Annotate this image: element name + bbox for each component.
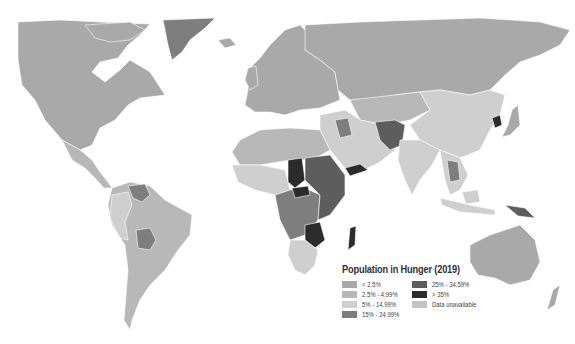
legend-item: Data unavailable bbox=[412, 299, 502, 309]
legend-item: 15% - 24.99% bbox=[342, 309, 410, 319]
region-uk bbox=[245, 66, 258, 90]
legend-item: < 2.5% bbox=[342, 279, 410, 289]
legend-items: < 2.5% 2.5% - 4.99% 5% - 14.99% 15% - 24… bbox=[342, 279, 512, 319]
legend-label: 5% - 14.99% bbox=[362, 301, 396, 308]
legend-title: Population in Hunger (2019) bbox=[342, 263, 492, 275]
legend-swatch bbox=[412, 301, 427, 308]
legend-item: 5% - 14.99% bbox=[342, 299, 410, 309]
region-madagascar bbox=[348, 226, 356, 250]
legend-swatch bbox=[342, 311, 357, 318]
legend-item: 25% - 34.59% bbox=[412, 279, 502, 289]
legend-label: 15% - 24.99% bbox=[362, 311, 399, 318]
region-chad bbox=[288, 158, 305, 188]
region-iceland bbox=[218, 38, 236, 48]
legend-label: Data unavailable bbox=[432, 301, 476, 308]
legend: Population in Hunger (2019) < 2.5% 2.5% … bbox=[342, 263, 512, 319]
region-japan bbox=[502, 105, 520, 137]
legend-label: 25% - 34.59% bbox=[432, 281, 469, 288]
region-papua-new-guinea bbox=[505, 205, 535, 218]
legend-item: > 35% bbox=[412, 289, 502, 299]
legend-label: 2.5% - 4.99% bbox=[362, 291, 398, 298]
region-india bbox=[398, 140, 440, 195]
legend-swatch bbox=[412, 281, 427, 288]
legend-label: > 35% bbox=[432, 291, 449, 298]
legend-swatch bbox=[342, 301, 357, 308]
region-new-zealand bbox=[547, 285, 560, 310]
region-north-america bbox=[18, 20, 165, 150]
legend-swatch bbox=[412, 291, 427, 298]
region-greenland bbox=[163, 18, 215, 60]
region-borneo bbox=[462, 190, 480, 204]
region-west-africa bbox=[232, 165, 290, 195]
legend-swatch bbox=[342, 291, 357, 298]
legend-swatch bbox=[342, 281, 357, 288]
region-russia bbox=[305, 18, 570, 100]
legend-label: < 2.5% bbox=[362, 281, 381, 288]
legend-item: 2.5% - 4.99% bbox=[342, 289, 410, 299]
